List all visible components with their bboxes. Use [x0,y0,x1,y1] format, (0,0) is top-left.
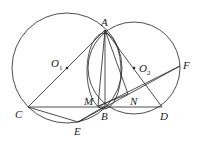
label-c: C [15,109,22,120]
segment-mn [98,94,128,106]
geometry-diagram: A B C D E F M N O1 O2 [0,0,200,141]
label-d: D [160,111,168,122]
label-f: F [183,60,190,71]
segment-an [105,30,128,94]
label-b: B [101,111,108,122]
label-e: E [74,126,81,137]
point-o1 [66,67,69,70]
label-n: N [130,96,137,107]
segment-am [98,30,105,106]
segment-ce [28,107,78,122]
label-o2: O2 [139,63,150,77]
label-a: A [101,17,108,28]
label-m: M [84,96,93,107]
diagram-canvas [0,0,200,141]
label-o1: O1 [51,58,62,72]
point-o2 [133,67,136,70]
